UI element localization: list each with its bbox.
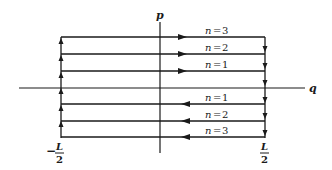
arrow-down-icon xyxy=(263,130,268,136)
arrow-up-icon xyxy=(59,105,64,111)
svg-text:=: = xyxy=(213,25,221,36)
trajectory-lower-n2 xyxy=(61,118,265,124)
left-bound-label: − L 2 xyxy=(46,141,64,165)
p-axis-label: p xyxy=(156,9,164,22)
svg-text:n: n xyxy=(205,125,211,136)
label-lower-n3: n = 3 xyxy=(205,125,228,136)
arrow-up-icon xyxy=(59,88,64,94)
label-upper-n2: n = 2 xyxy=(205,42,228,53)
arrow-up-icon xyxy=(59,55,64,61)
svg-text:1: 1 xyxy=(222,59,228,70)
arrow-up-icon xyxy=(59,72,64,78)
svg-text:=: = xyxy=(213,59,221,70)
phase-space-diagram: q p xyxy=(0,0,332,170)
trajectory-upper-n2 xyxy=(61,51,265,57)
right-bound-label: L 2 xyxy=(260,141,269,165)
svg-text:−: − xyxy=(46,144,56,158)
arrow-up-icon xyxy=(59,121,64,127)
svg-text:=: = xyxy=(213,125,221,136)
svg-text:2: 2 xyxy=(261,154,268,165)
svg-text:L: L xyxy=(55,141,63,152)
label-lower-n2: n = 2 xyxy=(205,109,228,120)
diagram-svg: q p xyxy=(0,0,332,170)
svg-text:n: n xyxy=(205,92,211,103)
svg-text:n: n xyxy=(205,109,211,120)
arrow-down-icon xyxy=(263,113,268,119)
arrow-down-icon xyxy=(263,46,268,52)
q-axis-label: q xyxy=(309,82,317,95)
svg-text:n: n xyxy=(205,42,211,53)
svg-text:3: 3 xyxy=(222,125,228,136)
arrow-left-icon xyxy=(181,118,190,124)
arrow-right-icon xyxy=(178,34,187,40)
arrow-down-icon xyxy=(263,97,268,103)
arrow-left-icon xyxy=(181,134,190,140)
svg-text:L: L xyxy=(260,141,268,152)
label-upper-n3: n = 3 xyxy=(205,25,228,36)
arrow-right-icon xyxy=(178,68,187,74)
svg-text:=: = xyxy=(213,92,221,103)
svg-text:2: 2 xyxy=(222,42,228,53)
svg-text:=: = xyxy=(213,42,221,53)
trajectory-lower-n1 xyxy=(61,101,265,107)
svg-text:1: 1 xyxy=(222,92,228,103)
svg-text:2: 2 xyxy=(56,154,63,165)
arrow-down-icon xyxy=(263,80,268,86)
arrow-right-icon xyxy=(178,51,187,57)
arrow-down-icon xyxy=(263,63,268,69)
svg-text:3: 3 xyxy=(222,25,228,36)
svg-text:n: n xyxy=(205,25,211,36)
arrow-up-icon xyxy=(59,38,64,44)
label-upper-n1: n = 1 xyxy=(205,59,228,70)
svg-text:n: n xyxy=(205,59,211,70)
trajectory-upper-n1 xyxy=(61,68,265,74)
label-lower-n1: n = 1 xyxy=(205,92,228,103)
arrow-left-icon xyxy=(181,101,190,107)
svg-text:2: 2 xyxy=(222,109,228,120)
svg-text:=: = xyxy=(213,109,221,120)
trajectory-upper-n3 xyxy=(61,34,265,40)
trajectory-lower-n3 xyxy=(61,134,265,140)
